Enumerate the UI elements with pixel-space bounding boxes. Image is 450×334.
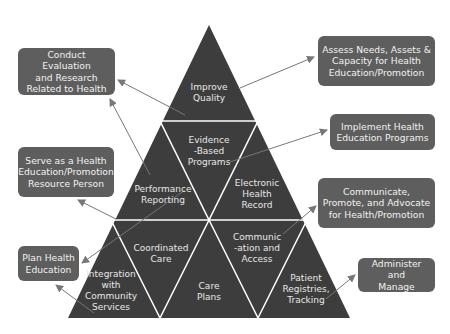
box-plan-health-education: Plan Health Education [18,246,79,281]
box-communicate-promote-advocate: Communicate, Promote, and Advocate for H… [318,178,435,228]
box-implement-programs: Implement Health Education Programs [330,114,435,150]
segment-coordinated-care: Coordinated Care [133,243,188,265]
segment-patient-registries-tracking: Patient Registries, Tracking [282,273,329,306]
segment-improve-quality: Improve Quality [190,82,227,104]
segment-evidence-based-programs: Evidence -Based Programs [188,135,231,168]
segment-integration-community-services: Integration with Community Services [85,269,137,313]
box-administer-manage: Administer and Manage [358,258,435,292]
arrow-pyramid-to-resource [78,200,116,219]
box-serve-resource-person: Serve as a Health Education/Promotion Re… [18,147,114,197]
segment-performance-reporting: Performance Reporting [134,184,191,206]
arrow-performance-to-evaluation [110,99,150,175]
segment-communication-and-access: Communic -ation and Access [233,232,281,265]
segment-care-plans: Care Plans [197,281,221,303]
arrow-improve-to-assess [240,57,314,88]
segment-electronic-health-record: Electronic Health Record [235,178,279,211]
box-assess-needs: Assess Needs, Assets & Capacity for Heal… [318,36,435,86]
box-conduct-evaluation: Conduct Evaluation and Research Related … [18,48,115,95]
